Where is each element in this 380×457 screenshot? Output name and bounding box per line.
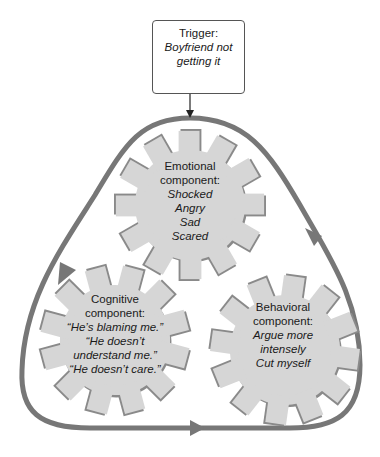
arrow-bottom-right-icon <box>190 420 205 436</box>
component-item: Angry <box>140 201 240 215</box>
component-item: “He’s blaming me.” <box>55 320 175 334</box>
component-title: component: <box>228 314 338 328</box>
component-item: “He doesn’t care.” <box>55 362 175 376</box>
component-title: Cognitive <box>55 292 175 306</box>
component-item: Sad <box>140 215 240 229</box>
emotional-component: Emotional component: Shocked Angry Sad S… <box>140 159 240 243</box>
trigger-line: getting it <box>153 54 244 68</box>
component-title: component: <box>140 173 240 187</box>
component-title: Emotional <box>140 159 240 173</box>
trigger-line: Boyfriend not <box>153 40 244 54</box>
component-item: intensely <box>228 342 338 356</box>
trigger-title: Trigger: <box>153 26 244 40</box>
component-item: “He doesn’t <box>55 334 175 348</box>
component-item: Cut myself <box>228 356 338 370</box>
trigger-box: Trigger: Boyfriend not getting it <box>152 20 245 94</box>
component-item: Argue more <box>228 328 338 342</box>
component-title: Behavioral <box>228 300 338 314</box>
component-item: Scared <box>140 229 240 243</box>
cognitive-component: Cognitive component: “He’s blaming me.” … <box>55 292 175 376</box>
component-item: Shocked <box>140 187 240 201</box>
component-title: component: <box>55 306 175 320</box>
behavioral-component: Behavioral component: Argue more intense… <box>228 300 338 370</box>
component-item: understand me.” <box>55 348 175 362</box>
